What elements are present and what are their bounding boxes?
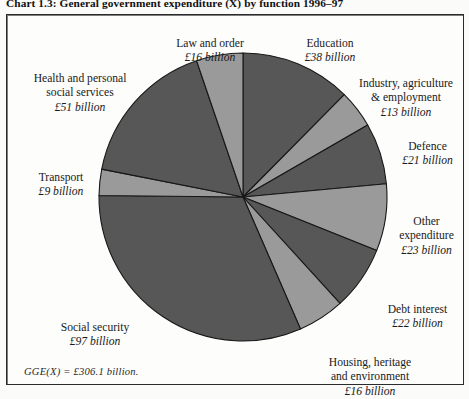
label-social-security-name: Social security [61, 321, 130, 334]
label-law-and-order-name: Law and order [176, 37, 244, 50]
label-industry-amount: £13 billion [344, 106, 468, 121]
label-defence: Defence £21 billion [386, 125, 469, 183]
label-transport: Transport £9 billion [12, 156, 110, 214]
label-law-and-order-amount: £16 billion [152, 51, 268, 66]
label-housing-name: Housing, heritage and environment [329, 356, 411, 384]
label-social-security: Social security £97 billion [28, 306, 162, 364]
label-health-amount: £51 billion [13, 101, 147, 116]
label-health-name: Health and personal social services [34, 72, 127, 100]
label-law-and-order: Law and order £16 billion [152, 22, 268, 80]
label-transport-name: Transport [39, 171, 84, 184]
label-transport-amount: £9 billion [12, 185, 110, 200]
page-background: Chart 1.3: General government expenditur… [0, 0, 469, 399]
label-housing-amount: £16 billion [306, 385, 434, 399]
label-industry-name: Industry, agriculture & employment [359, 77, 453, 105]
label-health-personal-social-services: Health and personal social services £51 … [13, 57, 147, 130]
chart-footnote: GGE(X) = £306.1 billion. [24, 366, 139, 377]
label-defence-amount: £21 billion [386, 154, 469, 169]
label-debt-interest: Debt interest £22 billion [366, 288, 469, 346]
label-debt-interest-name: Debt interest [388, 303, 448, 316]
label-other-expenditure: Other expenditure £23 billion [384, 200, 469, 273]
label-other-name: Other expenditure [399, 215, 454, 243]
label-debt-interest-amount: £22 billion [366, 317, 469, 332]
label-education-name: Education [306, 37, 353, 50]
label-social-security-amount: £97 billion [28, 335, 162, 350]
label-housing-heritage-environment: Housing, heritage and environment £16 bi… [306, 341, 434, 399]
label-other-amount: £23 billion [384, 244, 469, 259]
label-defence-name: Defence [408, 140, 447, 153]
